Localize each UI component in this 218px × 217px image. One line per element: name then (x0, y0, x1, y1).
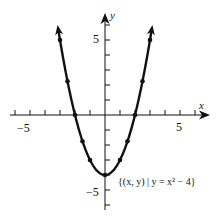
data-point (133, 113, 138, 118)
y-tick-label-neg5: −5 (86, 185, 99, 199)
data-point (88, 158, 93, 163)
data-point (125, 139, 130, 144)
data-point (103, 173, 108, 178)
data-point (58, 38, 63, 43)
y-tick-label-pos5: 5 (93, 32, 99, 46)
data-point (140, 79, 145, 84)
x-axis-label: x (198, 99, 204, 111)
x-tick-label-neg5: −5 (17, 121, 30, 135)
data-point (65, 79, 70, 84)
data-point (80, 139, 85, 144)
data-point (148, 38, 153, 43)
x-tick-label-pos5: 5 (176, 120, 182, 134)
data-point (73, 113, 78, 118)
data-point (118, 158, 123, 163)
parabola-chart: x y −5 5 5 −5 {(x, y) | y = x² − 4} (0, 0, 218, 217)
y-axis-label: y (109, 9, 115, 21)
function-annotation: {(x, y) | y = x² − 4} (118, 176, 196, 188)
